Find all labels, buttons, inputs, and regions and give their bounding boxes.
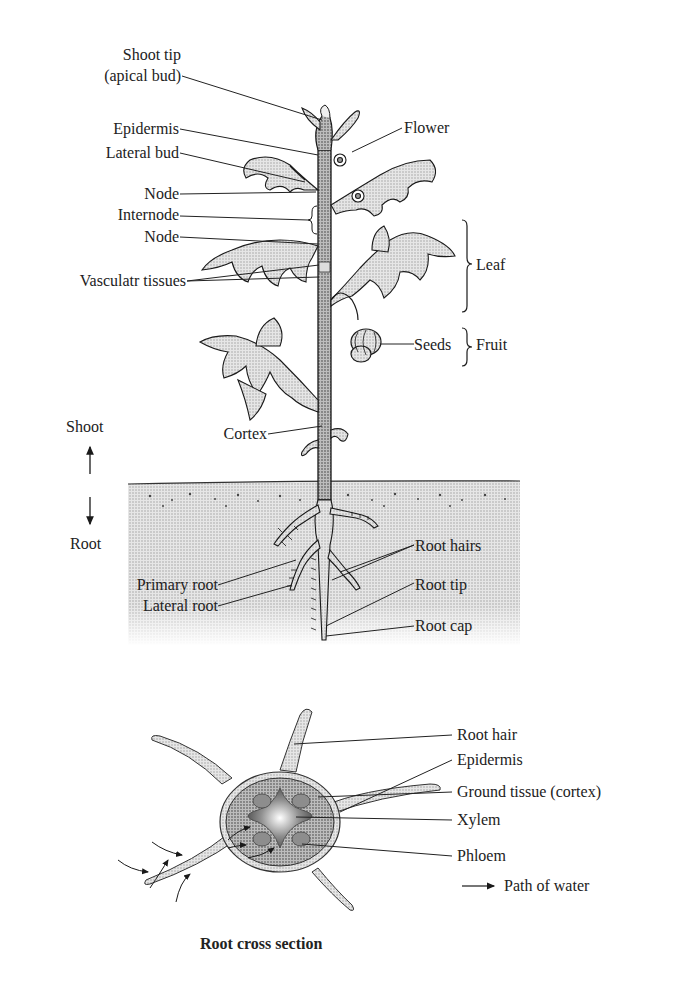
label-node-upper: Node [144, 185, 179, 203]
fruit [331, 293, 381, 362]
label-primary-root: Primary root [137, 576, 218, 594]
label-fruit: Fruit [476, 336, 507, 354]
label-lateral-root: Lateral root [143, 597, 218, 615]
label-root-cap: Root cap [415, 617, 472, 635]
label-cs-root-hair: Root hair [457, 726, 517, 744]
label-vascular-tissues: Vasculatr tissues [80, 272, 186, 290]
label-epidermis: Epidermis [113, 120, 179, 138]
label-lateral-bud: Lateral bud [106, 144, 179, 162]
label-cs-xylem: Xylem [457, 811, 501, 829]
label-leaf: Leaf [476, 256, 505, 274]
brackets [462, 220, 472, 366]
label-internode: Internode [118, 206, 179, 224]
label-path-of-water: Path of water [504, 877, 589, 895]
cross-section-title: Root cross section [200, 935, 322, 953]
label-seeds: Seeds [414, 336, 451, 354]
label-cs-phloem: Phloem [457, 847, 506, 865]
label-root-tip: Root tip [415, 576, 467, 594]
label-root-direction: Root [70, 535, 101, 553]
label-shoot-direction: Shoot [66, 418, 103, 436]
stem [308, 105, 332, 500]
label-node-lower: Node [144, 228, 179, 246]
root-cross-section [118, 709, 494, 910]
plant-anatomy-diagram [0, 0, 687, 992]
label-apical-bud: (apical bud) [104, 67, 181, 85]
label-cs-ground-tissue: Ground tissue (cortex) [457, 783, 601, 801]
label-root-hairs: Root hairs [415, 537, 481, 555]
label-cs-epidermis: Epidermis [457, 751, 523, 769]
label-flower: Flower [404, 119, 449, 137]
label-shoot-tip: Shoot tip [123, 46, 181, 64]
label-cortex: Cortex [223, 425, 267, 443]
